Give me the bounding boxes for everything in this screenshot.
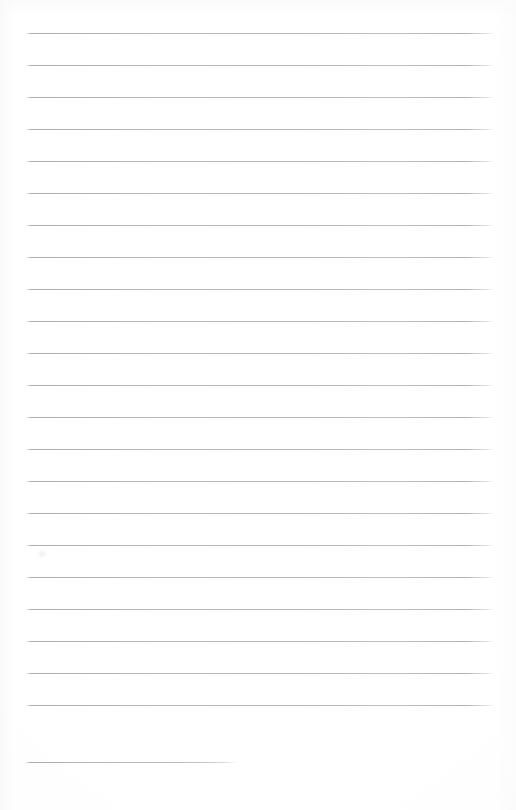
ruled-line [26,385,495,386]
ruled-line-ink [26,289,495,290]
ruled-line [26,577,495,578]
ruled-line [26,129,495,130]
ruled-line [26,65,495,66]
ruled-line-ink [26,193,495,194]
ruled-line-ink [26,385,495,386]
ruled-line-ink [26,609,495,610]
ruled-line [26,353,495,354]
ruled-line-ink [26,641,495,642]
ruled-line-ink [26,97,495,98]
ruled-line [26,225,495,226]
ruled-line [26,449,495,450]
ruled-line-ink [26,481,495,482]
ruled-line [26,33,495,34]
ruled-line-ink [26,417,495,418]
ruled-line [26,609,495,610]
ruled-line-ink [26,129,495,130]
paper-surface [0,0,516,810]
ruled-line-ink [26,257,495,258]
ruled-line-ink [26,673,495,674]
document-page [0,0,516,810]
ruled-line [26,513,495,514]
ruled-line [26,289,495,290]
ruled-line [26,417,495,418]
ruled-line-ink [26,161,495,162]
ruled-line [26,97,495,98]
ruled-line [26,641,495,642]
ruled-line [26,193,495,194]
ruled-line-ink [26,513,495,514]
ruled-line [26,161,495,162]
ruled-line-ink [26,545,495,546]
ruled-line [26,321,495,322]
ruled-line [26,545,495,546]
ruled-line-ink [26,353,495,354]
ruled-line [26,705,495,706]
ruled-line-ink [26,577,495,578]
ruled-line-ink [26,762,237,763]
ruled-line-ink [26,33,495,34]
ruled-line-ink [26,449,495,450]
ruled-line [26,481,495,482]
ruled-line-ink [26,705,495,706]
ruled-line [26,762,237,763]
ruled-line-ink [26,321,495,322]
ruled-line [26,257,495,258]
ruled-line-ink [26,225,495,226]
ruled-line [26,673,495,674]
ruled-line-ink [26,65,495,66]
